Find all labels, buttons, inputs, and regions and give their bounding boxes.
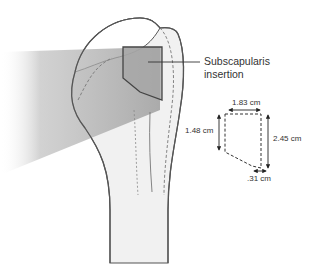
dim-label-top: 1.83 cm <box>232 98 261 107</box>
callout-label-line2: insertion <box>204 68 244 80</box>
footprint-schematic <box>225 114 261 168</box>
dim-label-right: 2.45 cm <box>273 134 302 143</box>
humerus-diagram: Subscapularis insertion 1.83 cm 1.48 cm … <box>0 0 316 265</box>
callout-label-line1: Subscapularis <box>204 55 270 67</box>
dim-label-bottom: .31 cm <box>247 174 271 183</box>
dim-label-left: 1.48 cm <box>185 126 214 135</box>
